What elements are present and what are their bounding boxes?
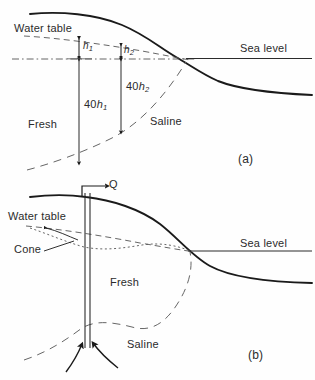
- label-fresh-a: Fresh: [28, 118, 57, 130]
- label-fresh-b: Fresh: [110, 276, 139, 288]
- label-depth1-subscript: 1: [103, 103, 107, 112]
- panel-marker-a: (a): [238, 152, 253, 166]
- label-saline-b: Saline: [127, 338, 159, 350]
- label-h2: h2: [124, 44, 134, 57]
- label-sea-level-a: Sea level: [240, 42, 287, 54]
- label-h1-subscript: 1: [89, 44, 93, 53]
- water-table-a: [24, 36, 190, 60]
- interface-b: [24, 252, 191, 360]
- saline-upflow-arrow-left: [66, 344, 82, 372]
- label-sea-level-b: Sea level: [240, 237, 287, 249]
- label-h1: h1: [83, 40, 93, 53]
- label-depth2-coefficient: 40: [126, 80, 139, 92]
- saline-upflow-arrow-right: [93, 343, 118, 368]
- label-depth1-coefficient: 40: [84, 98, 97, 110]
- cone-leader-line: [44, 241, 74, 251]
- label-h2-subscript: 2: [130, 48, 134, 57]
- figure-drawing: [0, 0, 315, 380]
- figure-container: Water table Sea level h1 h2 40h1 40h2 Fr…: [0, 0, 315, 380]
- water-table-leader-b: [46, 228, 78, 240]
- label-depth-40h2: 40h2: [126, 80, 149, 94]
- label-cone-b: Cone: [14, 243, 41, 255]
- panel-marker-b: (b): [248, 348, 263, 362]
- label-depth2-subscript: 2: [145, 85, 149, 94]
- label-saline-a: Saline: [150, 115, 182, 127]
- label-depth-40h1: 40h1: [84, 98, 107, 112]
- label-discharge-q: Q: [109, 178, 118, 190]
- label-water-table-a: Water table: [14, 22, 72, 34]
- discharge-pipe-q: [82, 186, 108, 196]
- label-water-table-b: Water table: [8, 210, 66, 222]
